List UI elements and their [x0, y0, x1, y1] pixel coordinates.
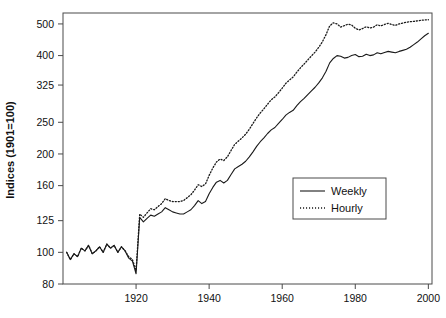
y-tick-label: 400 — [36, 49, 54, 61]
legend-label-weekly: Weekly — [331, 185, 367, 197]
y-tick-label: 500 — [36, 18, 54, 30]
x-tick-label: 2000 — [417, 292, 441, 304]
legend-label-hourly: Hourly — [331, 202, 363, 214]
x-tick-label: 1960 — [271, 292, 295, 304]
y-axis-ticks: 80100125160200250325400500 — [36, 18, 63, 290]
x-tick-label: 1940 — [197, 292, 221, 304]
y-tick-label: 325 — [36, 79, 54, 91]
chart-legend: WeeklyHourly — [293, 178, 386, 219]
series-line-hourly — [67, 20, 429, 271]
x-axis-ticks: 19201940196019802000 — [124, 284, 440, 304]
data-series-group — [67, 20, 429, 274]
y-tick-label: 80 — [42, 278, 54, 290]
y-tick-label: 125 — [36, 214, 54, 226]
y-tick-label: 160 — [36, 179, 54, 191]
series-line-weekly — [67, 33, 429, 273]
line-chart: 80100125160200250325400500 1920194019601… — [0, 0, 446, 318]
chart-container: 80100125160200250325400500 1920194019601… — [0, 0, 446, 318]
y-tick-label: 200 — [36, 148, 54, 160]
y-axis-title: Indices (1901=100) — [4, 101, 16, 199]
y-tick-label: 100 — [36, 246, 54, 258]
y-tick-label: 250 — [36, 116, 54, 128]
x-tick-label: 1980 — [344, 292, 368, 304]
x-tick-label: 1920 — [124, 292, 148, 304]
